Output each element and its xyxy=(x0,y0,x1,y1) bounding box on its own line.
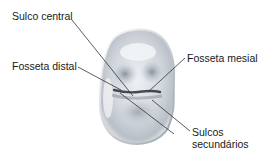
label-sulcos-secundarios-line1: Sulcos xyxy=(192,126,249,138)
label-fosseta-distal: Fosseta distal xyxy=(12,60,77,72)
cusp-highlight-top xyxy=(120,43,156,61)
label-sulcos-secundarios-line2: secundários xyxy=(192,138,249,150)
label-fosseta-mesial: Fosseta mesial xyxy=(187,52,258,64)
cusp-highlight-left xyxy=(103,78,113,118)
label-sulco-central: Sulco central xyxy=(12,10,73,22)
label-sulcos-secundarios: Sulcos secundários xyxy=(192,126,249,150)
cusp-shadow-distal-buccal xyxy=(112,62,138,86)
cusp-shadow-lingual xyxy=(118,98,158,126)
